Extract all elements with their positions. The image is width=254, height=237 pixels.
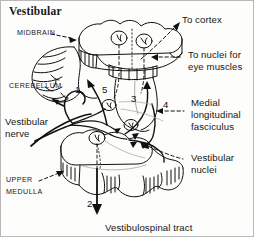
label-vestibular-nuclei-line1: Vestibular [191,153,234,163]
leader-upper-medulla-icon [39,173,59,181]
pathway-4-arrow-icon [129,104,164,162]
pons-column-icon [115,78,158,132]
label-upper-medulla-line2: MEDULLA [6,189,43,197]
pathway-number-4: 4 [163,99,168,110]
midbrain-pons-step-icon [109,65,157,80]
medulla-inner-contour-icon [105,141,145,158]
label-vestibular-nuclei-line2: nuclei [191,165,217,175]
label-vestibular-nerve-line2: nerve [5,129,30,139]
label-vestibular-nerve-line1: Vestibular [5,117,48,127]
vestibular-nucleus-medulla-icon [89,132,105,145]
label-upper-medulla-line1: UPPER [6,177,33,185]
pathway-number-1: 1 [75,84,80,95]
label-mlf-line1: Medial [191,98,220,108]
label-vestibulospinal-tract: Vestibulospinal tract [105,223,192,233]
label-cerebellum: CEREBELLUM [9,83,62,91]
label-midbrain: MIDBRAIN [17,30,55,38]
label-to-cortex: To cortex [182,15,222,25]
midbrain-block-icon [79,20,182,71]
leader-midbrain-arrowhead-icon [69,37,77,43]
pathway-1-arrow-icon [53,91,85,124]
pathway-number-3: 3 [131,93,136,104]
label-to-nuclei-line1: To nuclei for [188,50,241,60]
oculomotor-nucleus-icon [111,31,127,45]
upper-medulla-block-icon [61,130,184,197]
label-mlf-line2: longitudinal [191,110,241,120]
cerebellum-outline-icon [32,47,80,102]
trochlear-nucleus-icon [136,34,152,48]
pathway-number-5: 5 [102,84,107,95]
leader-to-nuclei-arrowhead-icon [151,54,158,61]
pathway-2-arrow-icon [92,169,102,215]
pathway-number-2: 2 [87,198,92,209]
vestibular-nerve-fan-icon [71,109,127,139]
vestibular-pathway-figure: Vestibular [0,0,254,237]
label-mlf-line3: fasciculus [191,122,234,132]
label-to-nuclei-line2: eye muscles [188,62,242,72]
